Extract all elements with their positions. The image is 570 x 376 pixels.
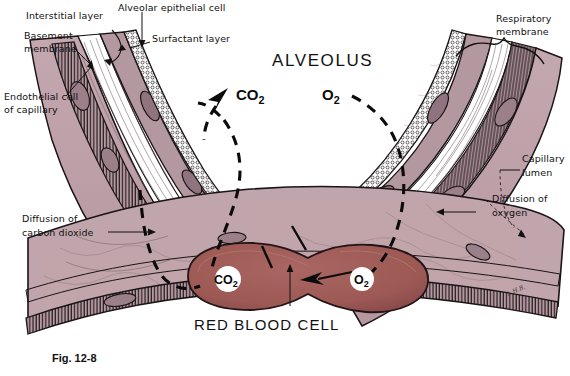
label-capillary-lumen-line1: Capillary [522, 153, 565, 164]
label-respiratory-membrane-line2: membrane [496, 26, 549, 37]
alveolus-title: ALVEOLUS [272, 51, 373, 70]
label-endothelial-cell-line1: Endothelial cell [4, 91, 78, 102]
label-basement-membrane-line2: membrane [24, 43, 77, 54]
label-diffusion-o2-line1: Diffusion of [492, 193, 548, 204]
label-endothelial-cell-line2: of capillary [4, 104, 58, 115]
label-respiratory-membrane-line1: Respiratory [496, 13, 552, 24]
label-capillary-lumen-line2: lumen [522, 167, 552, 178]
label-red-blood-cell: RED BLOOD CELL [194, 316, 339, 333]
alveolus-respiratory-membrane-figure: CO2 O2 CO2 O2 ALVEOLUS Interstitial laye… [0, 0, 570, 376]
label-surfactant-layer: Surfactant layer [152, 33, 230, 44]
label-diffusion-co2-line1: Diffusion of [22, 213, 78, 224]
figure-canvas: CO2 O2 CO2 O2 ALVEOLUS Interstitial laye… [0, 0, 570, 376]
label-diffusion-co2-line2: carbon dioxide [22, 227, 94, 238]
label-interstitial-layer: Interstitial layer [26, 10, 103, 21]
label-diffusion-o2-line2: oxygen [492, 207, 527, 218]
label-basement-membrane-line1: Basement [24, 30, 73, 41]
figure-caption: Fig. 12-8 [52, 352, 97, 364]
label-alveolar-epithelial-cell: Alveolar epithelial cell [118, 2, 225, 13]
